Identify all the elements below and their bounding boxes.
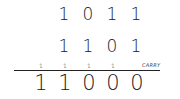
- digit: 1: [124, 6, 148, 23]
- carry-digit: 1: [29, 63, 53, 69]
- carry-digit: 1: [53, 63, 77, 69]
- operand-1: 1 0 1 1: [52, 6, 148, 23]
- result: 1 1 0 0 0: [29, 73, 149, 94]
- result-digit: 1: [29, 73, 53, 94]
- digit: 0: [100, 38, 124, 55]
- digit: 1: [100, 6, 124, 23]
- digit: 1: [52, 6, 76, 23]
- carry-digit: 1: [101, 63, 125, 69]
- carry-digit: 1: [77, 63, 101, 69]
- result-digit: 0: [77, 73, 101, 94]
- digit: 1: [52, 38, 76, 55]
- operand-2: 1 1 0 1: [52, 38, 148, 55]
- carry-label: CARRY: [142, 62, 160, 68]
- digit: 0: [76, 6, 100, 23]
- digit: 1: [76, 38, 100, 55]
- result-digit: 1: [53, 73, 77, 94]
- digit: 1: [124, 38, 148, 55]
- carry-row: 1 1 1 1: [29, 63, 125, 69]
- result-digit: 0: [101, 73, 125, 94]
- result-digit: 0: [125, 73, 149, 94]
